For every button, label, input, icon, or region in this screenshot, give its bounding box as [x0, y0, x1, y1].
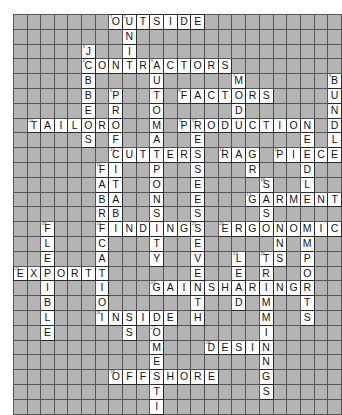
crossword-cell-filled[interactable]: E	[300, 192, 314, 207]
crossword-cell-filled[interactable]: S	[259, 88, 273, 103]
crossword-cell-filled[interactable]: R	[191, 370, 205, 385]
crossword-cell-filled[interactable]: S	[123, 325, 137, 340]
crossword-cell-filled[interactable]: 27O	[150, 325, 164, 340]
crossword-cell-filled[interactable]: N	[123, 29, 137, 44]
crossword-cell-filled[interactable]: O	[54, 266, 68, 281]
crossword-cell-filled[interactable]: I	[136, 310, 150, 325]
crossword-cell-filled[interactable]: A	[232, 148, 246, 163]
crossword-cell-filled[interactable]: A	[41, 118, 55, 133]
crossword-cell-filled[interactable]: 7M	[232, 74, 246, 89]
crossword-cell-filled[interactable]: L	[68, 118, 82, 133]
crossword-cell-filled[interactable]: I	[287, 148, 301, 163]
crossword-cell-filled[interactable]: R	[246, 88, 260, 103]
crossword-cell-filled[interactable]: S	[259, 384, 273, 399]
crossword-cell-filled[interactable]: E	[164, 310, 178, 325]
crossword-cell-filled[interactable]: S	[273, 251, 287, 266]
crossword-cell-filled[interactable]: R	[177, 148, 191, 163]
crossword-cell-filled[interactable]: N	[123, 222, 137, 237]
crossword-cell-filled[interactable]: O	[191, 59, 205, 74]
crossword-cell-filled[interactable]: T	[136, 15, 150, 30]
crossword-cell-filled[interactable]: H	[218, 281, 232, 296]
crossword-cell-filled[interactable]: G	[246, 148, 260, 163]
crossword-cell-filled[interactable]: S	[232, 340, 246, 355]
crossword-cell-filled[interactable]: U	[328, 88, 342, 103]
crossword-cell-filled[interactable]: I	[123, 44, 137, 59]
crossword-cell-filled[interactable]: L	[328, 133, 342, 148]
crossword-cell-filled[interactable]: T	[109, 177, 123, 192]
crossword-cell-filled[interactable]: E	[205, 370, 219, 385]
crossword-cell-filled[interactable]: M	[300, 236, 314, 251]
crossword-cell-filled[interactable]: 10T	[27, 118, 41, 133]
crossword-cell-filled[interactable]: M	[259, 310, 273, 325]
crossword-cell-filled[interactable]: O	[95, 59, 109, 74]
crossword-cell-filled[interactable]: C	[164, 59, 178, 74]
crossword-cell-filled[interactable]: E	[41, 325, 55, 340]
crossword-cell-filled[interactable]: 12R	[191, 118, 205, 133]
crossword-cell-filled[interactable]: N	[191, 281, 205, 296]
crossword-cell-filled[interactable]: I	[150, 399, 164, 414]
crossword-cell-filled[interactable]: D	[177, 15, 191, 30]
crossword-cell-filled[interactable]: 26I	[95, 310, 109, 325]
crossword-cell-filled[interactable]: V	[191, 251, 205, 266]
crossword-cell-filled[interactable]: L	[41, 236, 55, 251]
crossword-cell-filled[interactable]: E	[191, 236, 205, 251]
crossword-cell-filled[interactable]: R	[109, 103, 123, 118]
crossword-cell-filled[interactable]: S	[300, 310, 314, 325]
crossword-cell-filled[interactable]: C	[314, 148, 328, 163]
crossword-cell-filled[interactable]: N	[259, 340, 273, 355]
crossword-cell-filled[interactable]: R	[205, 59, 219, 74]
crossword-cell-filled[interactable]: A	[164, 281, 178, 296]
crossword-cell-filled[interactable]: U	[232, 118, 246, 133]
crossword-cell-filled[interactable]: R	[259, 266, 273, 281]
crossword-cell-filled[interactable]: E	[150, 355, 164, 370]
crossword-cell-filled[interactable]: I	[273, 118, 287, 133]
crossword-cell-filled[interactable]: 8F	[177, 88, 191, 103]
crossword-cell-filled[interactable]: S	[218, 59, 232, 74]
crossword-cell-filled[interactable]: N	[273, 236, 287, 251]
crossword-cell-filled[interactable]: D	[232, 103, 246, 118]
crossword-cell-filled[interactable]: N	[273, 222, 287, 237]
crossword-cell-filled[interactable]: M	[259, 296, 273, 311]
crossword-cell-filled[interactable]: U	[123, 148, 137, 163]
crossword-cell-filled[interactable]: 6P	[109, 88, 123, 103]
crossword-cell-filled[interactable]: 22E	[14, 266, 28, 281]
crossword-cell-filled[interactable]: S	[150, 15, 164, 30]
crossword-cell-filled[interactable]: F	[123, 370, 137, 385]
crossword-cell-filled[interactable]: E	[191, 15, 205, 30]
crossword-cell-filled[interactable]: Y	[150, 251, 164, 266]
crossword-cell-filled[interactable]: D	[136, 222, 150, 237]
crossword-cell-filled[interactable]: R	[246, 162, 260, 177]
crossword-grid[interactable]: 1O2UTSIDEN3JI4CONTR5ACTORSBU7M9BB6PT8FAC…	[13, 14, 342, 415]
crossword-cell-filled[interactable]: N	[109, 59, 123, 74]
crossword-cell-filled[interactable]: 20E	[218, 222, 232, 237]
crossword-cell-filled[interactable]: P	[150, 162, 164, 177]
crossword-cell-filled[interactable]: I	[150, 222, 164, 237]
crossword-cell-filled[interactable]: D	[150, 310, 164, 325]
crossword-cell-filled[interactable]: E	[191, 192, 205, 207]
crossword-cell-filled[interactable]: 13C	[109, 148, 123, 163]
crossword-cell-filled[interactable]: A	[95, 251, 109, 266]
crossword-cell-filled[interactable]: 25T	[259, 251, 273, 266]
crossword-cell-filled[interactable]: E	[41, 251, 55, 266]
crossword-cell-filled[interactable]: S	[82, 133, 96, 148]
crossword-cell-filled[interactable]: M	[287, 192, 301, 207]
crossword-cell-filled[interactable]: R	[68, 266, 82, 281]
crossword-cell-filled[interactable]: I	[259, 281, 273, 296]
crossword-cell-filled[interactable]: E	[232, 266, 246, 281]
crossword-cell-filled[interactable]: I	[109, 222, 123, 237]
crossword-cell-filled[interactable]: 4C	[82, 59, 96, 74]
crossword-cell-filled[interactable]: 16F	[95, 162, 109, 177]
crossword-cell-filled[interactable]: 28D	[205, 340, 219, 355]
crossword-cell-filled[interactable]: S	[259, 207, 273, 222]
crossword-cell-filled[interactable]: H	[191, 310, 205, 325]
crossword-cell-filled[interactable]: O	[150, 103, 164, 118]
crossword-cell-filled[interactable]: D	[218, 118, 232, 133]
crossword-cell-filled[interactable]: F	[109, 133, 123, 148]
crossword-cell-filled[interactable]: I	[54, 118, 68, 133]
crossword-cell-filled[interactable]: O	[287, 118, 301, 133]
crossword-cell-filled[interactable]: 29O	[109, 370, 123, 385]
crossword-cell-filled[interactable]: B	[95, 192, 109, 207]
crossword-cell-filled[interactable]: T	[95, 266, 109, 281]
crossword-cell-filled[interactable]: R	[136, 59, 150, 74]
crossword-cell-filled[interactable]: S	[123, 310, 137, 325]
